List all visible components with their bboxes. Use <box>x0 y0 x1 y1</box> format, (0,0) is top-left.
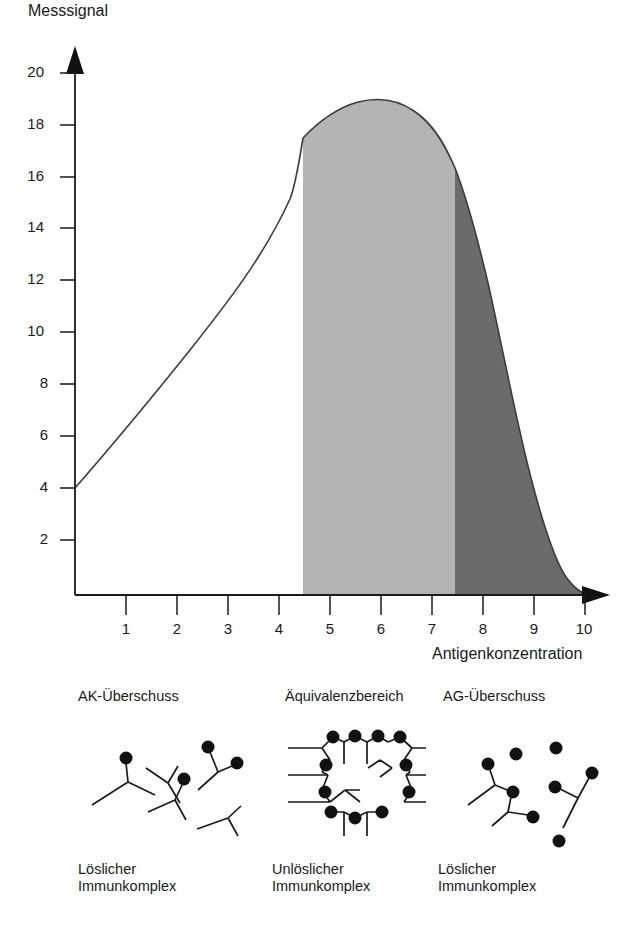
complex-caption-line1: Löslicher <box>78 861 176 878</box>
x-tick-label: 5 <box>318 620 342 637</box>
complex-caption-line2: Immunkomplex <box>78 878 176 895</box>
x-tick-label: 7 <box>420 620 444 637</box>
x-tick-label: 6 <box>369 620 393 637</box>
complex-caption-line1: Löslicher <box>438 861 536 878</box>
y-tick-label: 8 <box>22 374 48 391</box>
complex-caption-line2: Immunkomplex <box>438 878 536 895</box>
x-tick-label: 10 <box>572 620 596 637</box>
complex-caption-equivalence: Unlöslicher Immunkomplex <box>272 861 370 895</box>
y-tick-label: 4 <box>22 478 48 495</box>
complex-caption-antibody-excess: Löslicher Immunkomplex <box>78 861 176 895</box>
x-axis-title: Antigenkonzentration <box>432 645 582 663</box>
y-tick-label: 12 <box>18 270 44 287</box>
y-tick-label: 16 <box>18 167 44 184</box>
zone-label-antibody-excess: AK-Überschuss <box>78 688 179 704</box>
y-axis-ticks <box>60 73 75 540</box>
x-axis-ticks <box>126 595 585 615</box>
y-axis-title: Messsignal <box>28 2 108 20</box>
y-tick-label: 14 <box>18 218 44 235</box>
equivalence-zone-fill <box>303 100 455 595</box>
antigen-excess-schematic <box>468 742 599 848</box>
chart-canvas <box>0 0 628 931</box>
x-tick-label: 8 <box>471 620 495 637</box>
x-tick-label: 9 <box>522 620 546 637</box>
y-tick-label: 2 <box>22 530 48 547</box>
x-tick-label: 2 <box>165 620 189 637</box>
zone-label-equivalence: Äquivalenzbereich <box>285 688 404 704</box>
y-tick-label: 18 <box>18 115 44 132</box>
complex-caption-line2: Immunkomplex <box>272 878 370 895</box>
complex-caption-line1: Unlöslicher <box>272 861 370 878</box>
x-tick-label: 3 <box>216 620 240 637</box>
x-axis-arrow-icon <box>582 586 610 604</box>
precipitin-curve-figure: Messsignal Antigenkonzentration 2 4 6 8 … <box>0 0 628 931</box>
y-tick-label: 10 <box>18 322 44 339</box>
antibody-excess-schematic <box>92 741 244 837</box>
zone-label-antigen-excess: AG-Überschuss <box>443 688 545 704</box>
y-axis-arrow-icon <box>66 46 84 74</box>
y-tick-label: 20 <box>18 63 44 80</box>
x-tick-label: 4 <box>267 620 291 637</box>
x-tick-label: 1 <box>114 620 138 637</box>
equivalence-lattice-schematic <box>288 730 426 837</box>
complex-caption-antigen-excess: Löslicher Immunkomplex <box>438 861 536 895</box>
y-tick-label: 6 <box>22 426 48 443</box>
